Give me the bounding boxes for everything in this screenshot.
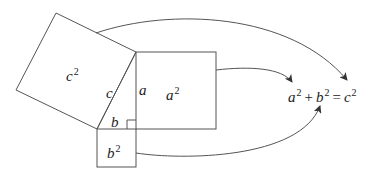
equation-c: c (344, 89, 351, 105)
right-angle-marker (127, 120, 136, 129)
arrow-a-squared (216, 68, 292, 82)
a-squared-label: a2 (166, 86, 180, 103)
side-b-label: b (111, 115, 119, 130)
equation-a: a (288, 89, 296, 105)
arrow-c-squared (96, 19, 347, 80)
b-squared-label: b2 (107, 144, 121, 161)
equation-b: b (316, 89, 324, 105)
c-squared-label: c2 (66, 67, 79, 84)
side-a-label: a (139, 83, 147, 98)
pythagorean-equation: a2+b2=c2 (288, 88, 357, 105)
side-c-label: c (106, 86, 113, 101)
equation-b-exp: 2 (324, 87, 329, 98)
equation-plus: + (305, 89, 313, 105)
equation-a-exp: 2 (297, 87, 302, 98)
equation-equals: = (332, 89, 340, 105)
arrow-b-squared (136, 106, 320, 156)
equation-c-exp: 2 (352, 87, 357, 98)
